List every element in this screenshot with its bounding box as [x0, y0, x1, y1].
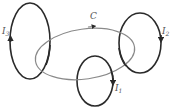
- current-label-i3: I3: [1, 26, 10, 37]
- path-label-c: C: [90, 11, 97, 21]
- ampere-loop-diagram: C I3 I2 I1: [0, 0, 178, 111]
- closed-path-c: [32, 22, 138, 85]
- current-label-i1: I1: [114, 83, 122, 94]
- current-loop-i3: [10, 3, 50, 79]
- current-loop-i1: [77, 56, 113, 106]
- current-label-i2: I2: [161, 26, 170, 37]
- direction-arrow-icon: [88, 26, 94, 27]
